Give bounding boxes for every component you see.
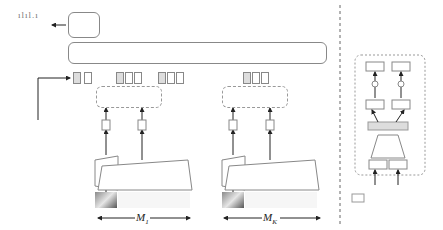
cls-star-token <box>84 72 92 84</box>
frame-thumbnail-1 <box>95 192 117 208</box>
token-1 <box>116 72 124 84</box>
token-2-a <box>167 72 175 84</box>
token-2-b <box>176 72 184 84</box>
segment-mk-label: MK <box>263 211 277 226</box>
trajectory-strip-1 <box>118 192 190 208</box>
legend-swatch <box>352 194 364 202</box>
token-2 <box>158 72 166 84</box>
multimodal-tokenizer-k <box>222 86 288 108</box>
frame-thumbnail-k <box>222 192 244 208</box>
token-1-b <box>134 72 142 84</box>
mlp-head-box <box>68 12 100 38</box>
token-k-a <box>252 72 260 84</box>
actions-chart-icon: ılıl.ı <box>18 10 39 20</box>
token-k-b <box>261 72 269 84</box>
token-k <box>243 72 251 84</box>
multimodal-tokenizer-1 <box>96 86 162 108</box>
temporal-transformer-box <box>68 42 327 64</box>
token-1-a <box>125 72 133 84</box>
segment-m1-label: M1 <box>136 211 149 226</box>
trajectory-strip-k <box>245 192 317 208</box>
cls-index-token <box>73 72 81 84</box>
